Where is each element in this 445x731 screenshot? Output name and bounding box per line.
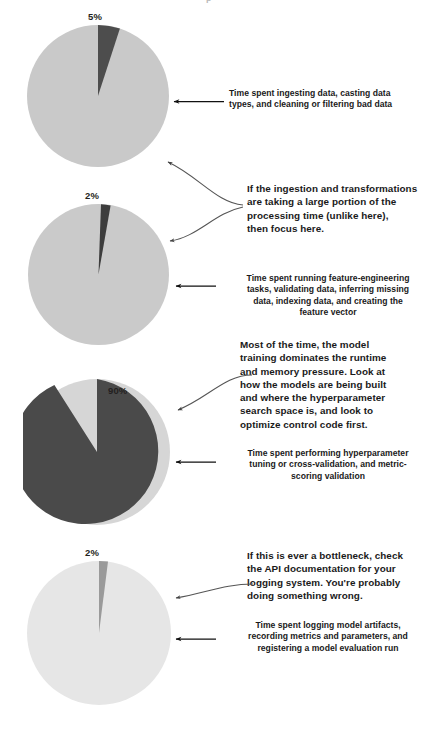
pie-chart-figure: p 5% Time spent ingesting data, casting … bbox=[0, 0, 445, 731]
curve-note1-to-pie-1 bbox=[168, 162, 243, 205]
pie-chart-2-feature-engineering bbox=[27, 203, 170, 346]
cropped-header-text: p bbox=[0, 0, 445, 9]
pie-1-caption: Time spent ingesting data, casting data … bbox=[229, 88, 434, 111]
pie-1-percent-label: 5% bbox=[88, 11, 102, 22]
pie-1-svg bbox=[26, 24, 170, 168]
pie-3-caption: Time spent performing hyperparameter tun… bbox=[222, 448, 434, 482]
pie-chart-1-ingestion bbox=[26, 24, 170, 168]
pie-3-svg bbox=[23, 378, 171, 526]
pie-3-percent-label: 90% bbox=[108, 385, 127, 396]
note-3-logging-guidance: If this is ever a bottleneck, check the … bbox=[247, 549, 437, 602]
pie-2-caption: Time spent running feature-engineering t… bbox=[222, 273, 434, 318]
pie-4-percent-label: 2% bbox=[85, 547, 99, 558]
note-2-training-guidance: Most of the time, the model training dom… bbox=[240, 338, 437, 431]
pie-4-caption: Time spent logging model artifacts, reco… bbox=[222, 620, 434, 654]
pie-chart-4-model-logging bbox=[26, 560, 172, 706]
curve-note1-to-pie-2 bbox=[170, 207, 243, 241]
curve-note3-to-pie-4 bbox=[176, 584, 253, 598]
pie-4-svg bbox=[26, 560, 172, 706]
pie-2-percent-label: 2% bbox=[85, 190, 99, 201]
pie-chart-3-model-training bbox=[23, 378, 171, 526]
note-1-ingestion-guidance: If the ingestion and transformations are… bbox=[247, 182, 437, 235]
pie-2-svg bbox=[27, 203, 170, 346]
